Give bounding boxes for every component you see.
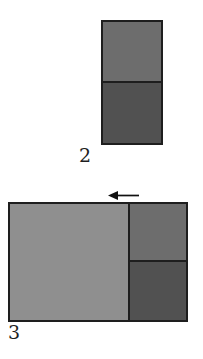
figure-3-right-top-square [130, 204, 186, 260]
figure-2-label: 2 [79, 146, 91, 165]
left-arrow-icon [107, 187, 141, 200]
arrow-head [108, 191, 118, 200]
figure-2-rectangle [101, 20, 163, 145]
figure-3-right-bottom-square [130, 262, 186, 320]
figure-2-top-square [103, 22, 161, 81]
diagram-canvas: 2 3 [0, 0, 203, 359]
figure-3-rectangle [8, 202, 188, 322]
left-arrow-svg [107, 189, 141, 202]
figure-2-bottom-square [103, 83, 161, 143]
figure-3-label: 3 [8, 323, 20, 342]
figure-3-large-square [10, 204, 128, 320]
